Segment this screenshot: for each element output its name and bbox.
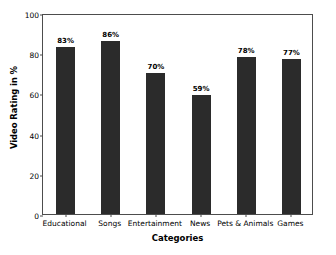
bar-group[interactable]: 59% [192, 15, 211, 214]
bar-value-label: 86% [102, 31, 119, 39]
x-tick-label: Games [277, 219, 303, 228]
x-tick-mark [65, 214, 66, 217]
bar[interactable] [56, 47, 75, 214]
bar-group[interactable]: 78% [237, 15, 256, 214]
x-tick-mark [155, 214, 156, 217]
x-tick-label: Educational [43, 219, 87, 228]
bar-value-label: 59% [193, 85, 210, 93]
bar-value-label: 83% [57, 37, 74, 45]
y-tick-label: 0 [34, 212, 39, 221]
bar[interactable] [146, 73, 165, 214]
y-axis-title: Video Rating in % [7, 0, 21, 215]
y-tick-label: 20 [29, 171, 39, 180]
bar[interactable] [192, 95, 211, 214]
bar[interactable] [282, 59, 301, 214]
y-tick-label: 100 [25, 11, 39, 20]
x-axis-title: Categories [42, 233, 313, 243]
bar-value-label: 77% [283, 49, 300, 57]
x-tick-mark [246, 214, 247, 217]
y-tick-label: 80 [29, 51, 39, 60]
x-tick-mark [110, 214, 111, 217]
y-tick-mark [40, 216, 43, 217]
bar[interactable] [101, 41, 120, 214]
bar-group[interactable]: 86% [101, 15, 120, 214]
bar-value-label: 70% [148, 63, 165, 71]
bar[interactable] [237, 57, 256, 214]
bar-group[interactable]: 83% [56, 15, 75, 214]
y-tick-label: 60 [29, 91, 39, 100]
x-tick-mark [201, 214, 202, 217]
x-tick-label: Pets & Animals [217, 219, 273, 228]
x-tick-label: News [190, 219, 210, 228]
plot-area: 020406080100 83%86%70%59%78%77% [42, 14, 313, 215]
x-tick-label: Entertainment [128, 219, 182, 228]
bar-group[interactable]: 70% [146, 15, 165, 214]
bar-group[interactable]: 77% [282, 15, 301, 214]
bar-value-label: 78% [238, 47, 255, 55]
x-tick-mark [291, 214, 292, 217]
bar-series: 83%86%70%59%78%77% [43, 15, 312, 214]
x-tick-label: Songs [98, 219, 121, 228]
y-tick-label: 40 [29, 131, 39, 140]
bar-chart-figure: Video Rating in % 020406080100 83%86%70%… [0, 0, 336, 255]
